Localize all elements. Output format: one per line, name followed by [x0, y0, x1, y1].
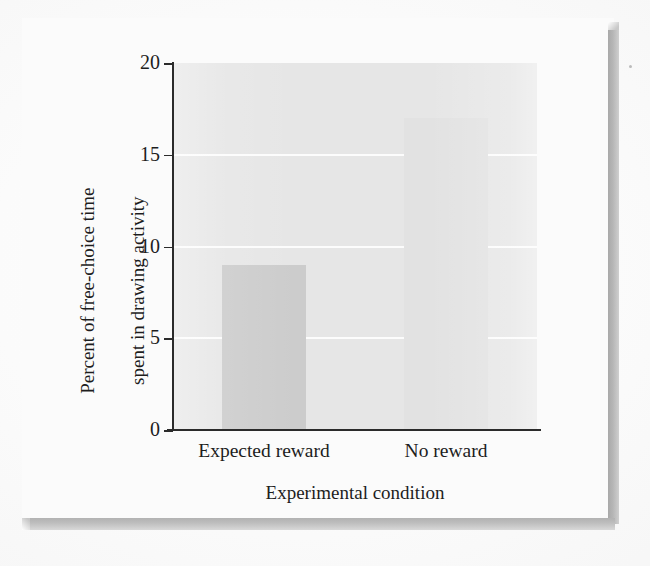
y-tick-label-wrap-20: 20: [112, 52, 160, 72]
y-axis-title-line-1: Percent of free-choice time: [75, 126, 100, 456]
y-axis-title-line-2: spent in drawing activity: [126, 126, 151, 456]
figure-screenshot: 05101520 Expected rewardNo reward Experi…: [0, 0, 650, 566]
x-axis-line: [167, 429, 541, 431]
y-tick-20: [164, 63, 173, 65]
plot-area: [173, 63, 537, 430]
plate-shadow-bottom: [30, 518, 615, 530]
y-axis-title: Percent of free-choice time spent in dra…: [50, 126, 175, 456]
category-label-expected-reward: Expected reward: [173, 440, 355, 462]
plate-shadow-right: [608, 30, 619, 524]
bar-expected-reward: [222, 265, 306, 430]
bar-no-reward: [404, 118, 488, 430]
category-label-no-reward: No reward: [355, 440, 537, 462]
x-axis-title: Experimental condition: [173, 482, 537, 504]
y-tick-label-20: 20: [118, 52, 160, 72]
scan-speck: [629, 65, 632, 68]
